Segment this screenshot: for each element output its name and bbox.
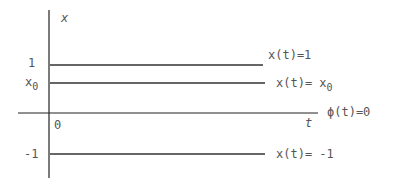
origin-label: 0	[54, 118, 61, 132]
label-phi-equals-0: ϕ(t)=0	[327, 105, 370, 119]
label-x-equals-x0: x(t)= x0	[276, 76, 333, 93]
t-axis-label: t	[305, 116, 312, 130]
y-axis-label: x	[60, 11, 69, 25]
equilibrium-diagram: x t 0 1 x0 -1 x(t)=1 x(t)= x0 ϕ(t)=0 x(t…	[0, 0, 397, 185]
tick-1: 1	[28, 56, 35, 70]
tick-minus-1: -1	[24, 147, 38, 161]
tick-x0: x0	[25, 75, 38, 92]
label-x-equals-1: x(t)=1	[268, 48, 311, 62]
label-x-equals-minus-1: x(t)= -1	[276, 147, 334, 161]
